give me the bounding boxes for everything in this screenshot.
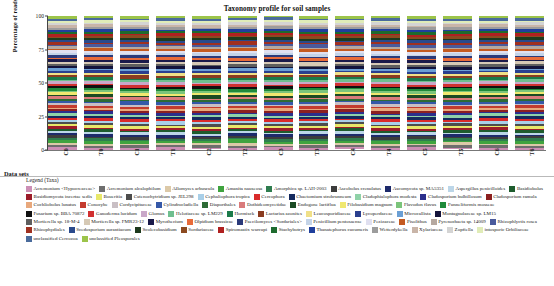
legend-item[interactable]: Rhizophlyctis rosea — [490, 219, 537, 226]
stacked-bar[interactable] — [48, 16, 77, 150]
x-label-slot: C2 — [192, 152, 221, 172]
stacked-bar[interactable] — [228, 16, 257, 150]
legend-item-label: Glomus — [149, 211, 165, 217]
legend-item[interactable]: Glomus — [141, 210, 164, 217]
legend-item[interactable]: Lycoperdaceae — [355, 210, 393, 217]
legend-item[interactable]: Ganoderma lucidum — [88, 210, 137, 217]
legend-item[interactable]: Catenochytridium sp. JEL298 — [126, 193, 193, 200]
legend-item[interactable]: Microcallista — [397, 210, 431, 217]
legend-color-swatch — [366, 219, 372, 225]
page-title: Taxonomy profile for soil samples — [0, 5, 554, 13]
legend-item[interactable]: Allomyces arbuscula — [165, 185, 215, 192]
legend-item[interactable]: Leucosporidiaceae — [306, 210, 351, 217]
legend-color-swatch — [88, 211, 94, 217]
x-label-slot: T4 — [371, 152, 400, 172]
legend-item[interactable]: Cordycipitaceae — [112, 202, 152, 209]
stacked-bar[interactable] — [443, 16, 472, 150]
stacked-bar[interactable] — [299, 16, 328, 150]
legend-item[interactable]: Pezizaceae — [366, 219, 396, 226]
legend-item[interactable]: Cladosporium bulbillosum — [420, 193, 481, 200]
legend-item[interactable]: Pisolithus — [399, 219, 426, 226]
legend-item[interactable]: Hormisck — [227, 210, 254, 217]
stacked-bar[interactable] — [264, 16, 293, 150]
legend-item[interactable]: Cercophora — [254, 193, 285, 200]
legend-item[interactable]: Ascobolus crenulatus — [331, 185, 382, 192]
legend-item[interactable]: Olpidium brassicae — [187, 219, 233, 226]
legend-item[interactable]: Dothideomycetidae — [239, 202, 286, 209]
stacked-bar[interactable] — [479, 16, 508, 150]
legend-item[interactable]: Cladosporium ramula — [486, 193, 537, 200]
legend-item[interactable]: Thanatephorus cucumeris — [309, 227, 368, 234]
legend-item[interactable]: Myrothecium — [148, 219, 183, 226]
legend-item[interactable]: Diaporthales — [202, 202, 235, 209]
legend-item[interactable]: Flavodon flavus — [396, 202, 436, 209]
legend-item[interactable]: unclassified Pleosporales — [82, 235, 140, 242]
legend-item[interactable]: Boueritia — [96, 193, 122, 200]
legend-color-swatch — [306, 219, 312, 225]
legend-item[interactable]: Pyrenochaeta sp. 14009 — [431, 219, 486, 226]
legend-item[interactable]: Zopfiella — [447, 227, 473, 234]
legend-item[interactable]: Funneliformis mosseae — [440, 202, 494, 209]
legend-item-label: Flavodon flavus — [404, 202, 436, 208]
x-tick-label: T6 — [529, 149, 535, 156]
legend-item[interactable]: Helotiaceae sp. LM229 — [168, 210, 222, 217]
legend-item[interactable]: intosporic Orbiliaceae — [477, 227, 529, 234]
legend-item[interactable]: Mortierella sp. 18-M-4 — [26, 219, 80, 226]
legend-item[interactable]: Lactarius azonites — [258, 210, 302, 217]
legend-item[interactable]: Aspergillus penicilloides — [448, 185, 505, 192]
legend-item[interactable]: Cochliobolus lunatus — [26, 202, 76, 209]
stacked-bar[interactable] — [156, 16, 185, 150]
legend-item[interactable]: Cylindrocladiella — [156, 202, 198, 209]
legend-color-swatch — [202, 202, 208, 208]
legend-item[interactable]: Acremonium <Hypocreaceae> — [26, 185, 95, 192]
stacked-bar[interactable] — [407, 16, 436, 150]
legend-item[interactable]: Cephaliophora tropica — [198, 193, 250, 200]
x-tick-label: C4 — [350, 148, 356, 155]
legend-item[interactable]: Cladophialophora modesta — [355, 193, 416, 200]
legend-color-swatch — [372, 227, 378, 233]
legend-item[interactable]: Wetterdykella — [372, 227, 408, 234]
legend-item[interactable]: Chaetomium strobrunneum — [289, 193, 351, 200]
stacked-bar[interactable] — [84, 16, 113, 150]
legend-item[interactable]: Stachybotrys — [271, 227, 305, 234]
legend-item[interactable]: Scolecobasidium — [135, 227, 177, 234]
legend-item[interactable]: Mortierella sp. FMR23-12 — [84, 219, 145, 226]
legend-item[interactable]: Amorphica sp. LAH-2003 — [266, 185, 326, 192]
legend-item[interactable]: Scedosporium aurantiacum — [69, 227, 131, 234]
legend-item-label: Conocybe — [88, 202, 108, 208]
stacked-bar[interactable] — [515, 16, 544, 150]
legend-color-swatch — [490, 219, 496, 225]
legend-item-label: Zopfiella — [455, 227, 473, 233]
legend-item[interactable]: Basidiobolus — [509, 185, 543, 192]
legend-item[interactable]: Filobasidium magnum — [340, 202, 393, 209]
legend-item[interactable]: Acremonium alcalophilum — [99, 185, 160, 192]
stacked-bar[interactable] — [120, 16, 149, 150]
legend-item[interactable]: Amanita nauseosa — [218, 185, 262, 192]
legend-item[interactable]: Sordariaceae — [181, 227, 214, 234]
legend-item-label: Leucosporidiaceae — [314, 211, 351, 217]
legend-color-swatch — [271, 227, 277, 233]
legend-item[interactable]: unclassified Cercozoa — [26, 235, 78, 242]
legend-item[interactable]: Xylariaceae — [412, 227, 443, 234]
legend-item[interactable]: Spiromastix warcupi — [218, 227, 267, 234]
legend-item[interactable]: Penicillium pentosaense — [306, 219, 362, 226]
legend-item[interactable]: Ascomycota sp. MA5351 — [385, 185, 444, 192]
legend-item-label: Basidiomycota incertae sedis — [34, 194, 92, 200]
legend-color-swatch — [477, 227, 483, 233]
legend-item-label: Acremonium alcalophilum — [107, 186, 161, 192]
stacked-bar[interactable] — [192, 16, 221, 150]
legend-item[interactable]: Fusarium sp. BBA 70872 — [26, 210, 84, 217]
legend-item[interactable]: Paecilomyces <Sordariales> — [237, 219, 301, 226]
stacked-bar[interactable] — [371, 16, 400, 150]
legend-item[interactable]: Rhizophydiales — [26, 227, 65, 234]
legend-item[interactable]: Conocybe — [80, 202, 108, 209]
legend-color-swatch — [254, 194, 260, 200]
legend-item[interactable]: Endogone lactiflua — [290, 202, 336, 209]
legend-item-label: Cladosporium ramula — [493, 194, 536, 200]
legend-item-label: Cochliobolus lunatus — [34, 202, 76, 208]
legend-item-label: Sordariaceae — [188, 227, 214, 233]
stacked-bar[interactable] — [335, 16, 364, 150]
legend-item[interactable]: Montagnulaceae sp. LM15 — [435, 210, 496, 217]
legend-item[interactable]: Basidiomycota incertae sedis — [26, 193, 92, 200]
legend-item-label: Catenochytridium sp. JEL298 — [134, 194, 194, 200]
